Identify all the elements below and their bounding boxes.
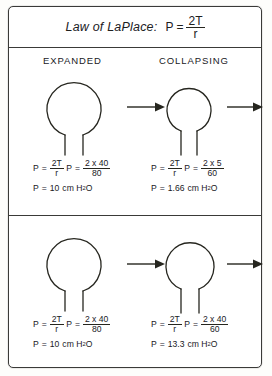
eq-lhs: P — [66, 164, 72, 173]
flow-arrow-row1-right — [227, 100, 263, 114]
result-unit: cm H — [62, 184, 82, 193]
eq-denominator: r — [168, 168, 182, 178]
eq-denominator: 80 — [83, 324, 110, 334]
eq-equals: = — [193, 320, 198, 329]
eq-lhs: P — [66, 320, 72, 329]
equation-row1-right-2: P = 2 x 5 60 — [184, 159, 223, 177]
equation-row2-left-1: P = 2T r — [33, 315, 64, 333]
title-row: Law of LaPlace: P = 2T r — [9, 7, 261, 47]
eq-lhs: P — [184, 320, 190, 329]
title-formula-fraction: 2T r — [186, 15, 204, 40]
eq-denominator: 60 — [201, 168, 224, 178]
result-unit-tail: O — [86, 340, 93, 349]
result-row1-right: P = 1.66 cm H2O — [151, 184, 218, 193]
eq-equals: = — [75, 320, 80, 329]
result-row2-left: P = 10 cm H2O — [33, 340, 92, 349]
eq-denominator: 80 — [83, 168, 110, 178]
result-lhs: P — [151, 340, 157, 349]
result-unit-tail: O — [211, 184, 218, 193]
eq-numerator: 2T — [168, 159, 182, 168]
eq-denominator: r — [50, 324, 64, 334]
eq-numerator: 2T — [168, 315, 182, 324]
title-formula: P = 2T r — [165, 15, 204, 40]
eq-fraction: 2 x 5 60 — [201, 159, 224, 177]
eq-equals: = — [42, 320, 47, 329]
row2-right-equations: P = 2T r P = 2 x 40 60 P — [151, 315, 263, 349]
result-lhs: P — [33, 184, 39, 193]
eq-lhs: P — [33, 164, 39, 173]
eq-fraction: 2T r — [168, 315, 182, 333]
eq-fraction: 2 x 40 60 — [201, 315, 228, 333]
alveolus-small-row1 — [145, 75, 245, 160]
eq-lhs: P — [33, 320, 39, 329]
result-unit-tail: O — [86, 184, 93, 193]
eq-equals: = — [75, 164, 80, 173]
eq-equals: = — [193, 164, 198, 173]
alveolus-large-row2 — [27, 225, 127, 315]
eq-equals: = — [160, 164, 165, 173]
result-equals: = — [42, 184, 47, 193]
result-value: 13.3 — [168, 340, 185, 349]
alveolus-small-row2 — [145, 229, 245, 317]
result-value: 10 — [50, 184, 60, 193]
diagram-row-2: P = 2T r P = 2 x 40 80 P — [9, 215, 261, 367]
eq-equals: = — [42, 164, 47, 173]
result-row1-left: P = 10 cm H2O — [33, 184, 92, 193]
eq-numerator: 2T — [50, 315, 64, 324]
title-formula-lhs: P — [165, 21, 173, 33]
result-unit-tail: O — [211, 340, 218, 349]
alveolus-large-row1 — [27, 69, 127, 159]
eq-numerator: 2 x 40 — [83, 159, 110, 168]
result-equals: = — [42, 340, 47, 349]
result-value: 10 — [50, 340, 60, 349]
result-value: 1.66 — [168, 184, 185, 193]
eq-numerator: 2T — [50, 159, 64, 168]
diagram-frame: Law of LaPlace: P = 2T r EXPANDED COLLAP… — [8, 6, 262, 368]
eq-denominator: 60 — [201, 324, 228, 334]
row1-right-equations: P = 2T r P = 2 x 5 60 P — [151, 159, 263, 193]
eq-numerator: 2 x 40 — [201, 315, 228, 324]
page-title: Law of LaPlace: — [66, 20, 158, 34]
title-formula-numerator: 2T — [186, 15, 204, 27]
result-lhs: P — [33, 340, 39, 349]
result-lhs: P — [151, 184, 157, 193]
eq-denominator: r — [50, 168, 64, 178]
row1-left-equations: P = 2T r P = 2 x 40 80 P — [33, 159, 133, 193]
equation-row2-right-1: P = 2T r — [151, 315, 182, 333]
eq-equals: = — [160, 320, 165, 329]
diagram-row-1: P = 2T r P = 2 x 40 80 P — [9, 47, 261, 215]
equation-row2-right-2: P = 2 x 40 60 — [184, 315, 228, 333]
eq-fraction: 2 x 40 80 — [83, 159, 110, 177]
title-formula-equals: = — [176, 21, 183, 33]
result-row2-right: P = 13.3 cm H2O — [151, 340, 218, 349]
result-equals: = — [160, 340, 165, 349]
eq-lhs: P — [184, 164, 190, 173]
eq-fraction: 2 x 40 80 — [83, 315, 110, 333]
eq-fraction: 2T r — [168, 159, 182, 177]
eq-numerator: 2 x 5 — [201, 159, 224, 168]
equation-row1-left-2: P = 2 x 40 80 — [66, 159, 110, 177]
eq-denominator: r — [168, 324, 182, 334]
title-formula-denominator: r — [186, 27, 204, 40]
eq-fraction: 2T r — [50, 315, 64, 333]
flow-arrow-row2-right — [227, 257, 263, 271]
eq-lhs: P — [151, 164, 157, 173]
eq-numerator: 2 x 40 — [83, 315, 110, 324]
result-unit: cm H — [188, 340, 208, 349]
eq-lhs: P — [151, 320, 157, 329]
eq-fraction: 2T r — [50, 159, 64, 177]
result-unit: cm H — [188, 184, 208, 193]
result-unit: cm H — [62, 340, 82, 349]
equation-row2-left-2: P = 2 x 40 80 — [66, 315, 110, 333]
equation-row1-right-1: P = 2T r — [151, 159, 182, 177]
equation-row1-left-1: P = 2T r — [33, 159, 64, 177]
row2-left-equations: P = 2T r P = 2 x 40 80 P — [33, 315, 133, 349]
result-equals: = — [160, 184, 165, 193]
